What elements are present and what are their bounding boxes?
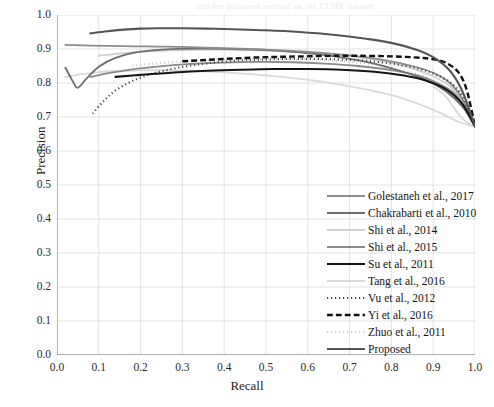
x-tick-label: 0.7 [330, 362, 370, 373]
legend-line-swatch [326, 326, 366, 338]
x-tick-label: 0.0 [37, 362, 77, 373]
legend-item-label: Golestaneh et al., 2017 [366, 190, 474, 202]
legend-item-label: Vu et al., 2012 [366, 292, 435, 304]
y-tick-label: 0.2 [17, 281, 51, 292]
legend-item[interactable]: Shi et al., 2014 [326, 221, 488, 238]
legend-item[interactable]: Proposed [326, 340, 488, 357]
legend-item-label: Tang et al., 2016 [366, 275, 445, 287]
x-tick-label: 0.1 [79, 362, 119, 373]
series-line [182, 56, 475, 127]
legend-line-swatch [326, 224, 366, 236]
legend-item[interactable]: Chakrabarti et al., 2010 [326, 204, 488, 221]
y-tick-label: 0.0 [17, 349, 51, 360]
legend-line-swatch [326, 207, 366, 219]
y-tick-label: 0.3 [17, 247, 51, 258]
series-line [99, 50, 475, 127]
x-tick-label: 0.8 [371, 362, 411, 373]
y-tick-label: 0.5 [17, 179, 51, 190]
legend-item[interactable]: Golestaneh et al., 2017 [326, 187, 488, 204]
x-tick-label: 0.2 [121, 362, 161, 373]
series-line [65, 70, 475, 126]
legend-line-swatch [326, 258, 366, 270]
legend-item[interactable]: Zhuo et al., 2011 [326, 323, 488, 340]
legend-item[interactable]: Shi et al., 2015 [326, 238, 488, 255]
legend-line-swatch [326, 275, 366, 287]
x-tick-label: 0.9 [413, 362, 453, 373]
y-tick-label: 0.6 [17, 145, 51, 156]
x-tick-label: 0.3 [162, 362, 202, 373]
y-tick-label: 0.8 [17, 77, 51, 88]
legend-line-swatch [326, 309, 366, 321]
legend-item-label: Zhuo et al., 2011 [366, 326, 446, 338]
legend-item[interactable]: Tang et al., 2016 [326, 272, 488, 289]
legend-item[interactable]: Su et al., 2011 [326, 255, 488, 272]
legend-item-label: Yi et al., 2016 [366, 309, 433, 321]
x-tick-label: 0.5 [246, 362, 286, 373]
legend-item-label: Proposed [366, 343, 411, 355]
series-line [65, 45, 475, 127]
legend-line-swatch [326, 190, 366, 202]
legend-line-swatch [326, 241, 366, 253]
y-tick-label: 0.4 [17, 213, 51, 224]
ghost-caption-text: and the proposed method on the CUHK data… [196, 1, 488, 10]
legend-item[interactable]: Yi et al., 2016 [326, 306, 488, 323]
legend-item-label: Shi et al., 2015 [366, 241, 437, 253]
legend-item[interactable]: Vu et al., 2012 [326, 289, 488, 306]
y-tick-label: 1.0 [17, 9, 51, 20]
x-tick-label: 0.4 [204, 362, 244, 373]
legend-item-label: Su et al., 2011 [366, 258, 434, 270]
x-axis-label: Recall [0, 378, 494, 394]
y-tick-label: 0.1 [17, 315, 51, 326]
x-tick-label: 0.6 [288, 362, 328, 373]
y-tick-label: 0.9 [17, 43, 51, 54]
legend-item-label: Shi et al., 2014 [366, 224, 437, 236]
legend-line-swatch [326, 292, 366, 304]
y-tick-label: 0.7 [17, 111, 51, 122]
figure-root: and the proposed method on the CUHK data… [0, 0, 494, 407]
x-tick-label: 1.0 [455, 362, 494, 373]
chart-legend: Golestaneh et al., 2017Chakrabarti et al… [326, 187, 488, 357]
legend-line-swatch [326, 343, 366, 355]
legend-item-label: Chakrabarti et al., 2010 [366, 207, 476, 219]
